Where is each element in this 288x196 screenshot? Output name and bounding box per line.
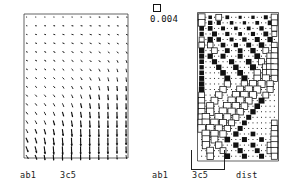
hinton-cell-minor: [253, 45, 254, 46]
hinton-cell-filled: [233, 131, 238, 136]
hinton-cell-minor: [257, 61, 258, 62]
hinton-cell-minor: [231, 33, 232, 34]
vector-arrowhead: [116, 143, 118, 145]
vector-arrowhead: [62, 143, 64, 145]
hinton-cell-minor: [205, 56, 206, 57]
hinton-cell-open: [272, 42, 278, 48]
hinton-cell-minor: [248, 128, 249, 129]
hinton-cell-minor: [261, 50, 262, 51]
hinton-cell-filled: [238, 54, 243, 59]
hinton-cell-minor: [257, 156, 258, 157]
hinton-cell-minor: [205, 100, 206, 101]
hinton-cell-minor: [235, 78, 236, 79]
hinton-cell-minor: [227, 45, 228, 46]
hinton-cell-minor: [261, 117, 262, 118]
hinton-cell-minor: [223, 61, 224, 62]
hinton-cell-minor: [223, 145, 224, 146]
hinton-cell-open: [267, 86, 273, 92]
hinton-cell-minor: [270, 95, 271, 96]
hinton-cell-minor: [231, 56, 232, 57]
hinton-cell-filled: [208, 37, 213, 42]
hinton-cell-filled: [255, 148, 260, 153]
hinton-cell-minor: [240, 45, 241, 46]
hinton-cell-open: [199, 92, 205, 98]
hinton-cell-minor: [240, 28, 241, 29]
hinton-cell-minor: [257, 117, 258, 118]
hinton-cell-minor: [240, 39, 241, 40]
hinton-cell-minor: [235, 56, 236, 57]
hinton-cell-open: [198, 20, 205, 27]
hinton-cell-minor: [244, 150, 245, 151]
hinton-cell-minor: [240, 61, 241, 62]
hinton-cell-minor: [253, 100, 254, 101]
scale-legend: 0.004: [150, 4, 194, 34]
hinton-cell-minor: [218, 100, 219, 101]
hinton-cell-minor: [214, 78, 215, 79]
hinton-cell-filled: [199, 48, 204, 53]
left-axis-label-ab1: ab1: [20, 171, 36, 180]
vector-arrowhead: [116, 134, 118, 136]
hinton-cell-filled: [199, 81, 204, 86]
vector-field-plot: [22, 10, 130, 162]
hinton-cell-minor: [227, 145, 228, 146]
hinton-cell-filled: [208, 21, 212, 25]
vector-arrowhead: [98, 126, 100, 128]
hinton-cell-filled: [259, 42, 264, 47]
hinton-cell-minor: [248, 67, 249, 68]
hinton-cell-open: [207, 42, 213, 48]
vector-arrowhead: [125, 151, 127, 153]
hinton-cell-minor: [265, 150, 266, 151]
hinton-cell-filled: [238, 126, 243, 131]
hinton-cell-filled: [251, 16, 254, 19]
hinton-cell-minor: [205, 67, 206, 68]
hinton-cell-filled: [233, 65, 238, 70]
hinton-cell-filled: [199, 59, 204, 64]
hinton-cell-minor: [218, 61, 219, 62]
hinton-lower-left-bracket: [191, 150, 225, 170]
hinton-cell-minor: [257, 95, 258, 96]
vector-arrowhead: [89, 126, 91, 128]
hinton-cell-filled: [199, 87, 205, 93]
hinton-cell-minor: [240, 117, 241, 118]
vector-arrowhead: [98, 116, 100, 118]
hinton-cell-filled: [199, 54, 204, 59]
hinton-cell-filled: [199, 26, 204, 31]
hinton-cell-minor: [223, 139, 224, 140]
hinton-cell-minor: [270, 106, 271, 107]
hinton-cell-minor: [214, 39, 215, 40]
hinton-cell-minor: [274, 89, 275, 90]
hinton-cell-minor: [240, 145, 241, 146]
hinton-cell-minor: [253, 56, 254, 57]
hinton-cell-minor: [240, 67, 241, 68]
open-square-swatch-icon: [153, 4, 161, 12]
hinton-cell-minor: [231, 28, 232, 29]
hinton-cell-minor: [235, 17, 236, 18]
hinton-cell-minor: [257, 33, 258, 34]
hinton-cell-minor: [270, 111, 271, 112]
hinton-cell-minor: [274, 106, 275, 107]
vector-arrowhead: [80, 144, 82, 146]
hinton-cell-filled: [254, 103, 260, 109]
hinton-cell-minor: [218, 78, 219, 79]
hinton-cell-minor: [248, 33, 249, 34]
right-axis-label-3c5: 3c5: [192, 171, 208, 180]
hinton-cell-open: [271, 20, 277, 26]
vector-arrowhead: [125, 108, 127, 110]
hinton-cell-minor: [210, 78, 211, 79]
hinton-cell-minor: [218, 50, 219, 51]
hinton-cell-minor: [218, 28, 219, 29]
hinton-cell-filled: [208, 16, 212, 20]
hinton-cell-minor: [227, 72, 228, 73]
hinton-cell-minor: [257, 100, 258, 101]
vector-arrowhead: [98, 152, 100, 154]
hinton-cell-filled: [212, 59, 217, 64]
vector-arrowhead: [125, 125, 127, 127]
hinton-cell-minor: [235, 89, 236, 90]
hinton-cell-minor: [214, 45, 215, 46]
hinton-cell-minor: [257, 128, 258, 129]
hinton-cell-filled: [225, 153, 231, 159]
hinton-cell-minor: [205, 84, 206, 85]
hinton-cell-minor: [214, 145, 215, 146]
hinton-cell-minor: [223, 67, 224, 68]
vector-arrowhead: [80, 125, 82, 127]
